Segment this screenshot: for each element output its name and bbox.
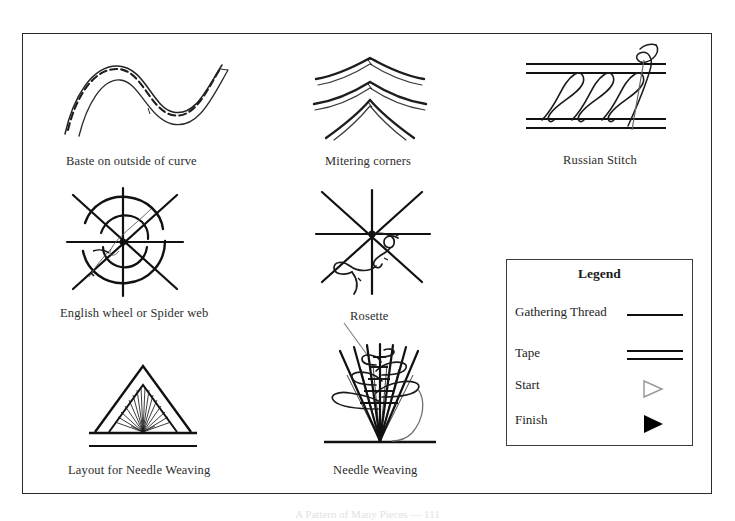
figure-english-wheel-or-spider-web xyxy=(55,183,225,303)
legend-symbol-solid-triangle xyxy=(623,412,683,432)
legend-label-tape: Tape xyxy=(515,345,540,361)
mitering-corners-icon xyxy=(312,52,437,147)
legend-item-finish: Finish xyxy=(507,412,692,446)
english-wheel-spider-web-icon xyxy=(55,183,225,303)
finish-triangle-icon xyxy=(641,413,665,435)
legend-box: Legend Gathering Thread Tape Start Fini xyxy=(506,259,693,446)
caption-needle-weaving: Needle Weaving xyxy=(333,463,418,478)
caption-mitering-corners: Mitering corners xyxy=(325,154,411,169)
caption-layout-for-needle-weaving: Layout for Needle Weaving xyxy=(68,463,210,478)
figure-rosette xyxy=(300,186,455,301)
needle-weaving-icon xyxy=(318,335,443,457)
page-running-foot: A Pattern of Many Pieces — 111 xyxy=(0,508,735,521)
legend-symbol-open-triangle xyxy=(623,377,683,397)
layout-needle-weaving-icon xyxy=(75,360,225,455)
start-triangle-icon xyxy=(641,378,665,400)
figure-mitering-corners xyxy=(312,52,437,147)
legend-title: Legend xyxy=(507,266,692,282)
legend-symbol-single-line xyxy=(623,304,683,324)
legend-label-start: Start xyxy=(515,377,540,393)
figure-baste-on-outside-of-curve xyxy=(60,52,240,147)
figure-russian-stitch xyxy=(520,40,680,145)
russian-stitch-icon xyxy=(520,40,680,145)
rosette-icon xyxy=(300,186,455,301)
caption-rosette: Rosette xyxy=(350,309,389,324)
legend-symbol-double-line xyxy=(623,345,683,365)
legend-item-start: Start xyxy=(507,377,692,411)
legend-label-finish: Finish xyxy=(515,412,548,428)
figure-layout-for-needle-weaving xyxy=(75,360,225,455)
legend-label-gathering-thread: Gathering Thread xyxy=(515,304,607,320)
baste-on-outside-of-curve-icon xyxy=(60,52,240,147)
caption-english-wheel-or-spider-web: English wheel or Spider web xyxy=(60,306,208,321)
caption-russian-stitch: Russian Stitch xyxy=(563,153,637,168)
legend-item-tape: Tape xyxy=(507,345,692,379)
page-canvas: Baste on outside of curve Mitering corne… xyxy=(0,0,735,521)
figure-needle-weaving xyxy=(318,335,443,457)
legend-item-gathering-thread: Gathering Thread xyxy=(507,304,692,338)
caption-baste-on-outside-of-curve: Baste on outside of curve xyxy=(66,154,197,169)
